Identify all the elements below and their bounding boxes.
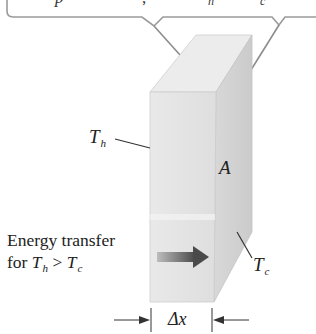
label-thickness: Δx — [168, 309, 187, 330]
label-cold-temperature: Tc — [253, 254, 269, 276]
slab-front-face — [150, 92, 216, 302]
dim-arrow-right-icon — [213, 316, 249, 324]
callout-text-fragment: c — [260, 0, 265, 9]
slab-highlight-band — [150, 214, 215, 220]
callout-text-fragment: p — [55, 0, 64, 8]
callout-text-fragment: , — [142, 0, 146, 8]
label-hot-symbol: T — [89, 126, 100, 147]
caption-tc-subscript: c — [77, 262, 82, 274]
label-cold-symbol: T — [253, 254, 264, 275]
label-hot-subscript: h — [101, 137, 107, 149]
callout-text-fragment: h — [208, 0, 214, 9]
caption-th-subscript: h — [43, 262, 49, 274]
label-hot-temperature: Th — [89, 126, 106, 148]
callout-box — [7, 0, 316, 26]
label-cold-subscript: c — [265, 265, 270, 277]
slab-diagram — [0, 0, 316, 334]
label-thickness-text: Δx — [168, 309, 187, 329]
label-area: A — [219, 157, 231, 179]
caption-line-1: Energy transfer — [7, 229, 115, 251]
leader-hot-face — [115, 139, 150, 148]
caption-th-symbol: T — [32, 252, 42, 272]
callout-leg-hot-face — [154, 26, 180, 55]
dim-arrow-left-icon — [114, 316, 150, 324]
caption-prefix: for — [7, 252, 32, 272]
caption-operator: > — [48, 252, 67, 272]
caption-tc-symbol: T — [67, 252, 77, 272]
caption-line-2: for Th > Tc — [7, 251, 115, 275]
caption-energy-transfer: Energy transfer for Th > Tc — [7, 229, 115, 275]
